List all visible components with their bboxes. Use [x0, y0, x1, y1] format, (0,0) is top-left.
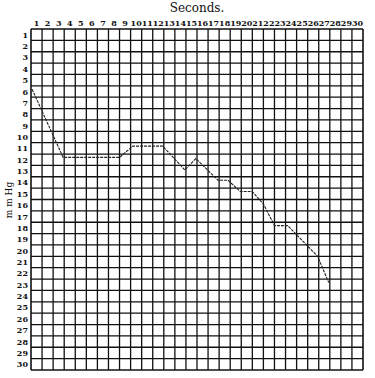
y-tick-label: 7	[22, 98, 28, 108]
x-tick-label: 7	[100, 18, 106, 28]
y-tick-label: 13	[17, 166, 29, 176]
x-tick-label: 8	[111, 18, 117, 28]
y-tick-label: 30	[17, 359, 29, 369]
y-tick-label: 26	[17, 314, 29, 324]
x-tick-label: 24	[285, 18, 297, 28]
y-tick-label: 25	[17, 302, 28, 312]
y-axis-label: m m Hg	[4, 182, 14, 219]
y-tick-label: 6	[22, 87, 28, 97]
y-tick-label: 1	[22, 30, 28, 40]
y-axis-ticks: 1234567891011121314151617181920212223242…	[17, 30, 29, 370]
x-tick-label: 19	[230, 18, 242, 28]
x-tick-label: 22	[263, 18, 274, 28]
x-tick-label: 30	[352, 18, 364, 28]
y-tick-label: 29	[17, 348, 29, 358]
x-tick-label: 21	[252, 18, 263, 28]
data-line	[32, 89, 329, 282]
x-tick-label: 10	[131, 18, 143, 28]
x-axis-ticks: 1234567891011121314151617181920212223242…	[34, 18, 364, 28]
y-tick-label: 8	[22, 109, 28, 119]
x-tick-label: 28	[330, 18, 342, 28]
y-tick-label: 24	[17, 291, 29, 301]
y-tick-label: 4	[22, 64, 28, 74]
y-tick-label: 16	[17, 200, 29, 210]
x-tick-label: 12	[153, 18, 164, 28]
x-tick-label: 3	[56, 18, 62, 28]
y-tick-label: 12	[17, 155, 28, 165]
y-tick-label: 23	[17, 280, 29, 290]
x-tick-label: 20	[241, 18, 253, 28]
x-tick-label: 15	[186, 18, 197, 28]
grid	[31, 29, 363, 370]
y-tick-label: 9	[22, 121, 28, 131]
y-tick-label: 11	[17, 143, 28, 153]
x-tick-label: 9	[122, 18, 128, 28]
x-tick-label: 23	[274, 18, 286, 28]
x-tick-label: 27	[319, 18, 330, 28]
x-tick-label: 6	[89, 18, 95, 28]
y-tick-label: 5	[22, 75, 28, 85]
x-tick-label: 11	[142, 18, 153, 28]
y-tick-label: 3	[22, 52, 28, 62]
y-tick-label: 22	[17, 268, 28, 278]
x-tick-label: 1	[34, 18, 40, 28]
y-tick-label: 14	[17, 177, 29, 187]
x-tick-label: 14	[175, 18, 187, 28]
x-tick-label: 29	[341, 18, 353, 28]
chart-title: Seconds.	[170, 1, 225, 15]
x-tick-label: 4	[67, 18, 73, 28]
y-tick-label: 18	[17, 223, 29, 233]
x-tick-label: 25	[297, 18, 308, 28]
y-tick-label: 15	[17, 189, 28, 199]
x-tick-label: 18	[219, 18, 231, 28]
y-tick-label: 27	[17, 325, 28, 335]
y-tick-label: 10	[17, 132, 29, 142]
y-tick-label: 17	[17, 212, 28, 222]
y-tick-label: 19	[17, 234, 29, 244]
x-tick-label: 17	[208, 18, 219, 28]
y-tick-label: 20	[17, 246, 29, 256]
x-tick-label: 16	[197, 18, 209, 28]
chart: Seconds. 1234567891011121314151617181920…	[0, 0, 375, 378]
y-tick-label: 21	[17, 257, 28, 267]
x-tick-label: 13	[164, 18, 176, 28]
y-tick-label: 28	[17, 337, 29, 347]
x-tick-label: 2	[45, 18, 51, 28]
x-tick-label: 26	[308, 18, 320, 28]
y-tick-label: 2	[22, 41, 28, 51]
x-tick-label: 5	[78, 18, 84, 28]
